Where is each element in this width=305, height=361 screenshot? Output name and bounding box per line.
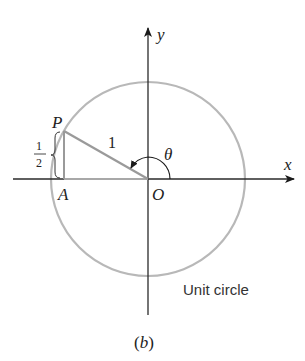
fraction-numerator: 1 [36,139,42,153]
caption-letter: b [140,333,149,352]
point-P-label: P [51,113,62,132]
caption-close-paren: ) [148,333,154,352]
unit-circle-diagram: y x P A O θ 1 1 2 Unit circle (b) [0,0,305,361]
origin-O-label: O [152,185,164,204]
angle-theta-label: θ [164,145,172,164]
figure-caption: (b) [134,333,154,352]
y-axis-label: y [155,25,165,44]
hypotenuse-length-label: 1 [108,134,116,151]
x-axis-label: x [283,155,292,174]
triangle-hypotenuse-PO [64,131,148,179]
point-A-label: A [57,185,69,204]
fraction-denominator: 2 [36,156,42,170]
unit-circle-label: Unit circle [183,281,249,298]
